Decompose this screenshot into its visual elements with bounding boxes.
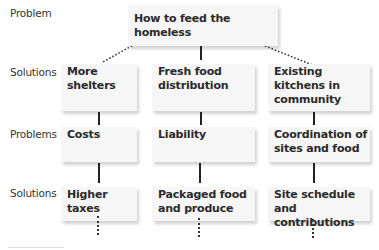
problem-label-3: Coordination of sites and food [274, 128, 372, 156]
root-connector [200, 46, 202, 60]
solution-label-3: Existing kitchens in community [274, 65, 372, 107]
solution2-box-1: Higher taxes [61, 187, 137, 221]
root-problem-box: How to feed the homeless [128, 5, 278, 46]
solution2-box-2: Packaged food and produce [152, 187, 255, 221]
connector-1a [98, 112, 100, 125]
problem-label-2: Liability [158, 128, 206, 142]
connector-3b [313, 163, 315, 183]
solution-label-2: Fresh food distribution [158, 65, 254, 93]
problem-box-2: Liability [152, 127, 255, 162]
solution-box-2: Fresh food distribution [152, 64, 255, 111]
solution2-box-3: Site schedule and contributions [268, 187, 370, 221]
solution-label-1: More shelters [67, 65, 137, 93]
root-problem-label: How to feed the homeless [134, 12, 278, 40]
continuation-dots-2 [198, 218, 200, 237]
solution2-label-1: Higher taxes [67, 188, 137, 216]
continuation-dots-1 [97, 216, 99, 235]
connector-1b [98, 163, 100, 183]
connector-2a [200, 112, 202, 125]
problem-box-3: Coordination of sites and food [268, 127, 370, 162]
solution-box-3: Existing kitchens in community [268, 64, 370, 111]
solution2-label-3: Site schedule and contributions [274, 188, 372, 230]
divider-rule [8, 247, 64, 248]
connector-3a [313, 112, 315, 125]
continuation-dots-3 [312, 219, 314, 238]
problem-label-1: Costs [67, 128, 100, 142]
solution2-label-2: Packaged food and produce [158, 188, 254, 216]
connector-2b [199, 163, 201, 183]
problem-box-1: Costs [61, 127, 137, 162]
solution-box-1: More shelters [61, 64, 137, 111]
